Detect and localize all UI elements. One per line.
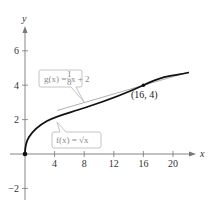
y-tick-label: −2 <box>8 183 19 194</box>
x-tick-label: 16 <box>138 158 148 169</box>
point-label-16-4: (16, 4) <box>131 89 158 101</box>
g-label-prefix: g(x) = <box>44 74 66 84</box>
callout-g: g(x) = 1 8 x + 2 <box>39 69 90 102</box>
x-axis-label: x <box>199 148 205 159</box>
callout-f: f(x) = √x <box>52 122 101 148</box>
x-tick-label: 12 <box>109 158 119 169</box>
y-tick-label: 4 <box>14 80 19 91</box>
x-axis-arrow-icon <box>189 152 196 157</box>
y-tick-label: 2 <box>14 114 19 125</box>
x-tick-label: 4 <box>52 158 57 169</box>
y-tick-labels: −2 2 4 6 <box>8 45 19 194</box>
x-tick-label: 8 <box>82 158 87 169</box>
point-origin <box>23 152 28 157</box>
y-axis-arrow-icon <box>23 26 28 33</box>
y-tick-label: 6 <box>14 45 19 56</box>
f-label: f(x) = √x <box>56 135 89 145</box>
g-label-suffix: x + 2 <box>71 74 90 84</box>
point-16-4 <box>142 83 146 87</box>
x-tick-label: 20 <box>168 158 178 169</box>
axes <box>10 26 196 200</box>
chart-canvas: 4 8 12 16 20 −2 2 4 6 x y (16, 4) g(x) =… <box>0 0 211 207</box>
x-tick-labels: 4 8 12 16 20 <box>52 158 178 169</box>
y-axis-label: y <box>21 13 27 24</box>
